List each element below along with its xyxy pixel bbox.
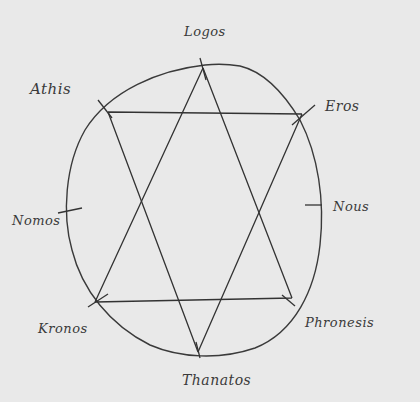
label-upper-left: Athis	[30, 80, 71, 98]
label-top: Logos	[184, 24, 226, 39]
vertex-ticks	[58, 58, 322, 358]
sketch-page: Logos Athis Eros Nous Nomos Kronos Phron…	[0, 0, 420, 418]
label-lower-left: Kronos	[38, 321, 88, 336]
triangle-down	[108, 112, 302, 352]
label-left: Nomos	[12, 213, 61, 228]
label-bottom: Thanatos	[182, 372, 251, 388]
label-lower-right: Phronesis	[305, 315, 374, 330]
label-right: Nous	[333, 199, 369, 214]
label-upper-right: Eros	[325, 98, 360, 114]
triangle-up	[95, 68, 292, 302]
